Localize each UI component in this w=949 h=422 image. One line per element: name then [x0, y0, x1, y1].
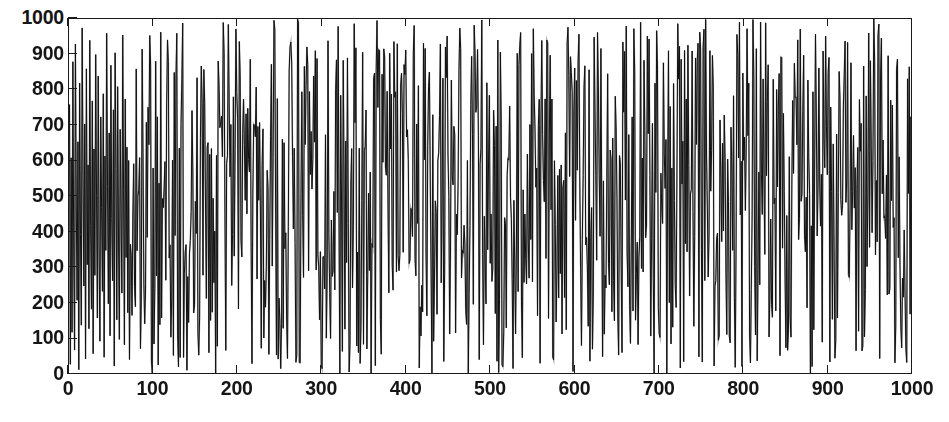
figure-random-sequence-plot: 10009008007006005004003002001000 0100200… — [0, 0, 949, 422]
y-tick-300 — [68, 266, 77, 267]
x-tick-600 — [574, 365, 575, 374]
x-tick-top-900 — [827, 18, 828, 26]
x-tick-top-100 — [152, 18, 153, 26]
x-tick-top-600 — [574, 18, 575, 26]
y-tick-600 — [68, 160, 77, 161]
x-tick-top-400 — [405, 18, 406, 26]
y-tick-1000 — [68, 17, 77, 18]
x-tick-0 — [67, 365, 68, 374]
x-tick-label-1000: 1000 — [852, 379, 949, 399]
x-tick-100 — [152, 365, 153, 374]
x-tick-top-500 — [489, 18, 490, 26]
y-tick-400 — [68, 231, 77, 232]
y-tick-200 — [68, 302, 77, 303]
x-tick-top-800 — [743, 18, 744, 26]
y-tick-label-100: 100 — [0, 328, 64, 348]
y-tick-label-300: 300 — [0, 257, 64, 277]
y-tick-0 — [68, 373, 77, 374]
y-tick-900 — [68, 53, 77, 54]
y-tick-label-800: 800 — [0, 79, 64, 99]
x-tick-1000 — [911, 365, 912, 374]
series-line-trace — [69, 19, 912, 374]
y-tick-label-700: 700 — [0, 115, 64, 135]
y-tick-800 — [68, 88, 77, 89]
y-tick-label-200: 200 — [0, 293, 64, 313]
y-tick-100 — [68, 338, 77, 339]
x-tick-top-700 — [658, 18, 659, 26]
x-tick-800 — [742, 365, 743, 374]
x-tick-200 — [236, 365, 237, 374]
y-tick-label-1000: 1000 — [0, 8, 64, 28]
y-tick-500 — [68, 195, 77, 196]
y-tick-label-900: 900 — [0, 44, 64, 64]
x-tick-500 — [489, 365, 490, 374]
x-tick-top-300 — [321, 18, 322, 26]
x-tick-top-0 — [67, 18, 68, 26]
x-tick-top-200 — [236, 18, 237, 26]
plot-area — [68, 18, 912, 374]
y-tick-700 — [68, 124, 77, 125]
y-tick-label-500: 500 — [0, 186, 64, 206]
x-tick-300 — [320, 365, 321, 374]
caption-remnant — [12, 404, 937, 418]
x-tick-top-1000 — [911, 18, 912, 26]
x-tick-700 — [658, 365, 659, 374]
x-tick-900 — [827, 365, 828, 374]
y-tick-label-400: 400 — [0, 222, 64, 242]
y-tick-label-600: 600 — [0, 150, 64, 170]
x-tick-400 — [405, 365, 406, 374]
